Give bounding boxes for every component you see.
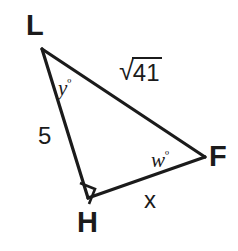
degree-symbol-icon: º <box>67 75 71 90</box>
vertex-label-H: H <box>77 208 98 237</box>
angle-variable-w: w <box>151 148 165 172</box>
radical-expression: √41 <box>119 57 162 86</box>
vertex-label-L: L <box>26 11 44 40</box>
side-length-label-LF: √41 <box>119 57 162 86</box>
angle-label-L: yº <box>58 78 71 99</box>
radicand: 41 <box>132 57 162 86</box>
vertex-label-F: F <box>209 142 227 171</box>
geometry-figure: L H F 5 x √41 yº wº <box>0 0 238 251</box>
side-length-label-HF: x <box>144 188 156 212</box>
angle-variable-y: y <box>58 76 67 100</box>
angle-label-F: wº <box>151 150 169 171</box>
degree-symbol-icon: º <box>165 147 169 162</box>
side-length-label-LH: 5 <box>38 124 51 148</box>
